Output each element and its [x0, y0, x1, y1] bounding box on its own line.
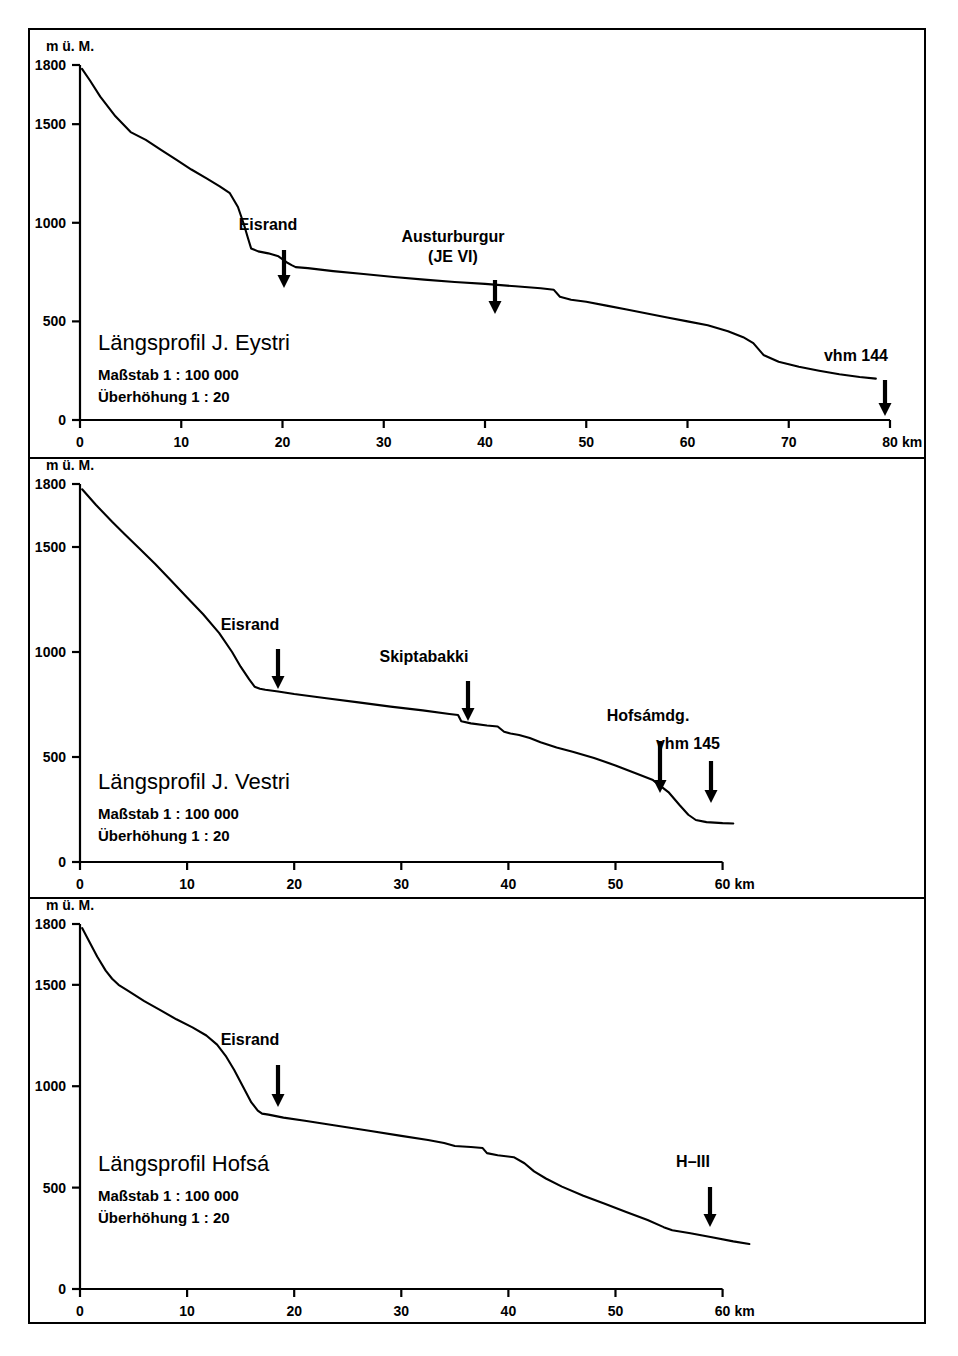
annotation-arrow-icon [272, 649, 285, 689]
y-tick-label: 1500 [35, 116, 66, 132]
x-tick-label: 10 [173, 434, 189, 450]
y-tick-label: 0 [58, 854, 66, 870]
y-axis-unit-label: m ü. M. [46, 459, 94, 473]
panel-scale-label: Maßstab 1 : 100 000 [98, 366, 239, 383]
annotation-arrow-icon [272, 1065, 285, 1107]
panel-exaggeration-label: Überhöhung 1 : 20 [98, 388, 230, 405]
annotation-label: Eisrand [221, 1031, 280, 1048]
x-tick-label: 30 [376, 434, 392, 450]
x-tick-label: 70 [781, 434, 797, 450]
y-tick-label: 0 [58, 1281, 66, 1297]
x-tick-label: 80 [882, 434, 898, 450]
y-tick-label: 500 [43, 749, 67, 765]
panel-title: Längsprofil J. Eystri [98, 330, 290, 355]
annotation-label: Eisrand [221, 616, 280, 633]
profile-panel-j-eystri: 0500100015001800m ü. M.01020304050607080… [28, 28, 926, 457]
panel-exaggeration-label: Überhöhung 1 : 20 [98, 827, 230, 844]
x-tick-label: 0 [76, 1303, 84, 1319]
x-axis-unit-label: km [734, 876, 754, 892]
x-tick-label: 50 [608, 1303, 624, 1319]
x-axis-unit-label: km [734, 1303, 754, 1319]
annotation-label: Austurburgur [401, 228, 504, 245]
x-axis-unit-label: km [902, 434, 922, 450]
annotation-label: H–III [676, 1153, 710, 1170]
profile-panel-hofsa: 0500100015001800m ü. M.0102030405060kmLä… [28, 899, 926, 1324]
x-tick-label: 0 [76, 434, 84, 450]
profile-chart-j-eystri: 0500100015001800m ü. M.01020304050607080… [28, 28, 926, 457]
annotation-label: Skiptabakki [380, 648, 469, 665]
panel-scale-label: Maßstab 1 : 100 000 [98, 1187, 239, 1204]
x-tick-label: 50 [578, 434, 594, 450]
annotation-arrow-icon [879, 380, 892, 416]
x-tick-label: 50 [608, 876, 624, 892]
annotation-label: Eisrand [239, 216, 298, 233]
profile-chart-j-vestri: 0500100015001800m ü. M.0102030405060kmLä… [28, 459, 926, 897]
y-tick-label: 1500 [35, 539, 66, 555]
panel-scale-label: Maßstab 1 : 100 000 [98, 805, 239, 822]
x-tick-label: 0 [76, 876, 84, 892]
annotation-arrow-icon [704, 1187, 717, 1227]
x-tick-label: 40 [501, 876, 517, 892]
y-tick-label: 1800 [35, 916, 66, 932]
annotation-label: Hofsámdg. [607, 707, 690, 724]
panel-title: Längsprofil Hofsá [98, 1151, 270, 1176]
x-tick-label: 10 [179, 876, 195, 892]
x-tick-label: 60 [715, 876, 731, 892]
y-tick-label: 1500 [35, 977, 66, 993]
y-tick-label: 1000 [35, 215, 66, 231]
figure-page: 0500100015001800m ü. M.01020304050607080… [0, 0, 958, 1356]
profile-panel-j-vestri: 0500100015001800m ü. M.0102030405060kmLä… [28, 459, 926, 897]
annotation-label: vhm 145 [656, 735, 720, 752]
profile-chart-hofsa: 0500100015001800m ü. M.0102030405060kmLä… [28, 899, 926, 1324]
panel-exaggeration-label: Überhöhung 1 : 20 [98, 1209, 230, 1226]
x-tick-label: 10 [179, 1303, 195, 1319]
annotation-arrow-icon [705, 761, 718, 803]
x-tick-label: 30 [394, 1303, 410, 1319]
x-tick-label: 20 [286, 876, 302, 892]
y-axis-unit-label: m ü. M. [46, 38, 94, 54]
y-tick-label: 500 [43, 313, 67, 329]
y-tick-label: 1800 [35, 57, 66, 73]
y-tick-label: 500 [43, 1180, 67, 1196]
y-tick-label: 1000 [35, 1078, 66, 1094]
annotation-arrow-icon [278, 250, 291, 288]
x-tick-label: 20 [286, 1303, 302, 1319]
x-tick-label: 30 [394, 876, 410, 892]
y-tick-label: 0 [58, 412, 66, 428]
x-tick-label: 20 [275, 434, 291, 450]
x-tick-label: 60 [715, 1303, 731, 1319]
x-tick-label: 60 [680, 434, 696, 450]
y-tick-label: 1800 [35, 476, 66, 492]
annotation-label: vhm 144 [824, 347, 888, 364]
panel-title: Längsprofil J. Vestri [98, 769, 290, 794]
x-tick-label: 40 [477, 434, 493, 450]
y-tick-label: 1000 [35, 644, 66, 660]
annotation-arrow-icon [462, 681, 475, 721]
y-axis-unit-label: m ü. M. [46, 899, 94, 913]
x-tick-label: 40 [501, 1303, 517, 1319]
annotation-label-secondary: (JE VI) [428, 248, 478, 265]
